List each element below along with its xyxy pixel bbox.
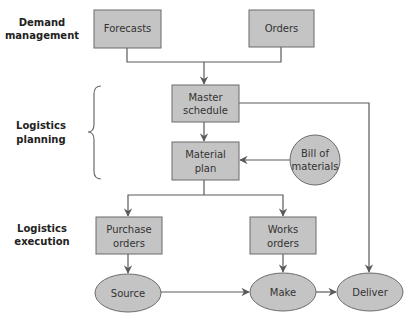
node-forecasts: Forecasts: [94, 10, 161, 48]
node-label: Deliver: [352, 287, 388, 298]
node-label: schedule: [183, 105, 228, 116]
node-label: Source: [111, 288, 145, 299]
node-purchase-orders: Purchase orders: [96, 217, 162, 254]
edge-split-purchase: [128, 195, 204, 216]
edge-split-works: [204, 195, 283, 216]
node-make: Make: [250, 273, 316, 311]
side-label-demand-management: Demand management: [5, 17, 79, 41]
node-label: Purchase: [106, 224, 151, 235]
side-label-logistics-planning: Logistics planning: [16, 120, 66, 145]
node-label: Make: [270, 287, 296, 298]
side-label-logistics-execution: Logistics execution: [14, 223, 69, 247]
side-label-line: Logistics: [17, 223, 67, 234]
side-label-line: planning: [16, 134, 65, 145]
side-label-line: management: [5, 30, 79, 41]
node-works-orders: Works orders: [250, 217, 316, 254]
curly-brace-icon: [88, 86, 101, 179]
node-material-plan: Material plan: [172, 142, 239, 180]
node-label: Bill of: [301, 148, 329, 159]
node-orders: Orders: [249, 10, 314, 47]
node-source: Source: [95, 274, 161, 312]
edge-forecasts-master: [127, 48, 204, 62]
logistics-flow-diagram: Demand management Logistics planning Log…: [0, 0, 414, 320]
node-label: Forecasts: [104, 23, 152, 34]
node-bill-of-materials: Bill of materials: [290, 135, 340, 185]
node-label: Material: [185, 149, 226, 160]
side-label-line: execution: [14, 236, 69, 247]
node-master-schedule: Master schedule: [172, 85, 239, 122]
edge-orders-master: [204, 47, 281, 62]
side-label-line: Demand: [19, 17, 66, 28]
node-label: Orders: [265, 23, 299, 34]
node-label: orders: [267, 238, 299, 249]
node-label: orders: [113, 238, 145, 249]
node-label: Works: [268, 224, 299, 235]
node-deliver: Deliver: [337, 273, 403, 311]
side-label-line: Logistics: [16, 120, 66, 131]
node-label: materials: [292, 161, 339, 172]
node-label: plan: [195, 163, 217, 174]
node-label: Master: [188, 92, 223, 103]
